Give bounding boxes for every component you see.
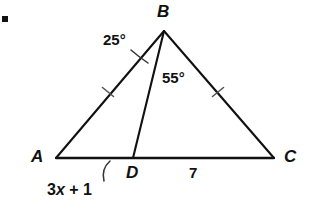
- length-ad-constant: 1: [83, 181, 92, 198]
- segment-bc: [164, 31, 274, 158]
- angle-label-abd: 25°: [103, 32, 126, 47]
- angle-label-dbc: 55°: [162, 70, 185, 85]
- length-leader-ad-icon: [103, 161, 110, 181]
- length-ad-coefficient: 3: [47, 181, 56, 198]
- length-ad-operator: +: [65, 181, 83, 198]
- length-label-dc: 7: [189, 165, 197, 180]
- triangle-diagram: [0, 0, 309, 210]
- length-label-ad: 3x + 1: [47, 182, 92, 198]
- vertex-label-a: A: [31, 148, 43, 165]
- vertex-label-b: B: [157, 3, 169, 20]
- vertex-label-c: C: [284, 148, 296, 165]
- vertex-label-d: D: [126, 164, 138, 181]
- length-ad-variable: x: [56, 181, 65, 198]
